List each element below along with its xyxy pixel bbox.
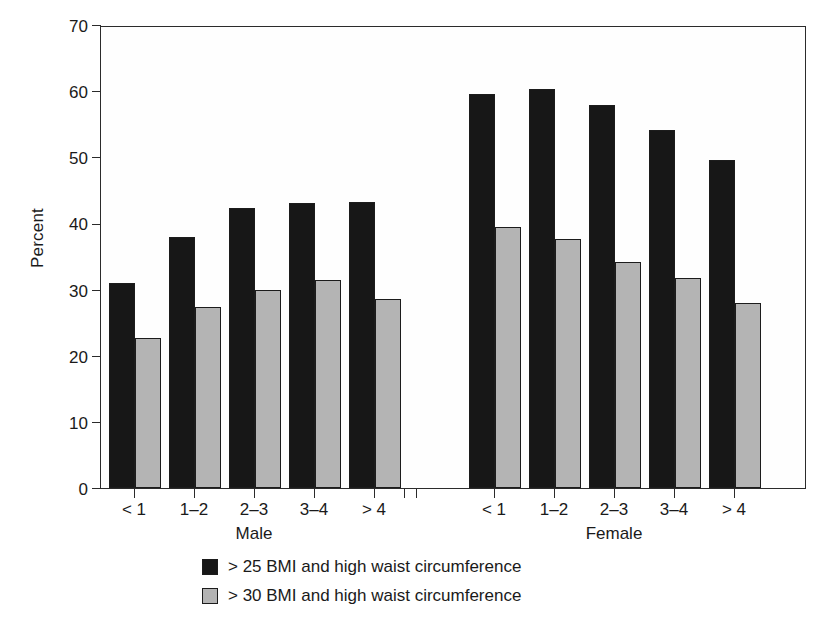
legend-entry-0: > 25 BMI and high waist circumference — [202, 557, 622, 577]
x-axis-boundary-tick — [416, 489, 417, 498]
bar-male-4-light — [375, 299, 401, 488]
x-axis-tick — [614, 489, 615, 498]
legend-label: > 25 BMI and high waist circumference — [228, 557, 521, 577]
bars-layer — [101, 27, 805, 488]
bar-female-1-dark — [529, 89, 555, 489]
bar-female-2-light — [615, 262, 641, 488]
y-axis-tick-label-text: 30 — [69, 282, 88, 302]
bar-chart-figure: Percent 010203040506070 < 11–22–33–4> 4M… — [0, 0, 824, 630]
bar-female-4-light — [735, 303, 761, 488]
bar-female-4-dark — [709, 160, 735, 488]
y-axis-tick-label-text: 0 — [79, 480, 88, 500]
x-axis-tick-label: < 1 — [464, 500, 524, 520]
bar-male-2-light — [255, 290, 281, 488]
x-axis-tick — [674, 489, 675, 498]
legend-swatch-icon — [202, 588, 218, 604]
x-axis-tick — [554, 489, 555, 498]
x-axis-tick — [494, 489, 495, 498]
x-axis-tick — [254, 489, 255, 498]
y-axis-tick-label-text: 50 — [69, 149, 88, 169]
bar-male-3-light — [315, 280, 341, 488]
bar-male-1-dark — [169, 237, 195, 488]
bar-male-0-light — [135, 338, 161, 488]
y-axis-tick-label-text: 20 — [69, 348, 88, 368]
y-axis-tick-label-text: 60 — [69, 83, 88, 103]
x-axis-tick-label: 2–3 — [584, 500, 644, 520]
x-axis-tick — [734, 489, 735, 498]
x-axis-tick-label: > 4 — [344, 500, 404, 520]
bar-female-1-light — [555, 239, 581, 488]
bar-male-0-dark — [109, 283, 135, 488]
plot-area — [100, 26, 806, 489]
x-axis-tick — [314, 489, 315, 498]
bar-female-3-light — [675, 278, 701, 488]
x-axis-group-label-female: Female — [534, 524, 694, 544]
x-axis-tick-label: 3–4 — [644, 500, 704, 520]
y-axis-tick-label-text: 40 — [69, 215, 88, 235]
legend-entry-1: > 30 BMI and high waist circumference — [202, 586, 622, 606]
bar-male-4-dark — [349, 202, 375, 488]
x-axis-tick-label: 1–2 — [524, 500, 584, 520]
bar-male-2-dark — [229, 208, 255, 488]
chart-legend: > 25 BMI and high waist circumference> 3… — [0, 552, 824, 610]
x-axis-tick-label: > 4 — [704, 500, 764, 520]
legend-row: > 30 BMI and high waist circumference — [0, 581, 824, 610]
legend-label: > 30 BMI and high waist circumference — [228, 586, 521, 606]
x-axis-tick-label: 1–2 — [164, 500, 224, 520]
x-axis-tick-label: 3–4 — [284, 500, 344, 520]
x-axis-group-label-male: Male — [174, 524, 334, 544]
bar-male-1-light — [195, 307, 221, 488]
bar-female-0-dark — [469, 94, 495, 488]
bar-female-0-light — [495, 227, 521, 488]
y-axis-label: Percent — [28, 178, 48, 298]
x-axis-tick — [134, 489, 135, 498]
x-axis-tick-label: < 1 — [104, 500, 164, 520]
legend-row: > 25 BMI and high waist circumference — [0, 552, 824, 581]
bar-male-3-dark — [289, 203, 315, 488]
y-axis-tick-label-text: 10 — [69, 414, 88, 434]
x-axis-tick-label: 2–3 — [224, 500, 284, 520]
x-axis-boundary-tick — [404, 489, 405, 498]
bar-female-3-dark — [649, 130, 675, 488]
legend-swatch-icon — [202, 559, 218, 575]
x-axis-tick — [374, 489, 375, 498]
y-axis-tick-label-text: 70 — [69, 17, 88, 37]
x-axis-tick — [194, 489, 195, 498]
bar-female-2-dark — [589, 105, 615, 488]
